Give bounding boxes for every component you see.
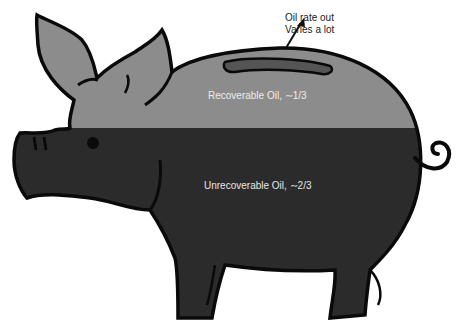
annotation-line-2: Varies a lot [285,24,334,36]
unrecoverable-oil-label: Unrecoverable Oil, ∼2/3 [204,180,312,192]
recoverable-oil-label: Recoverable Oil, ∼1/3 [208,90,307,102]
pig-fill [0,0,465,330]
nostril-right [44,137,46,150]
eye-icon [87,137,99,149]
piggy-bank-diagram [0,0,465,330]
annotation-line-1: Oil rate out [285,12,334,24]
nostril-left [34,137,36,150]
back-leg-rear [370,270,380,305]
unrecoverable-oil-region [0,128,465,330]
oil-rate-annotation: Oil rate out Varies a lot [285,12,334,36]
